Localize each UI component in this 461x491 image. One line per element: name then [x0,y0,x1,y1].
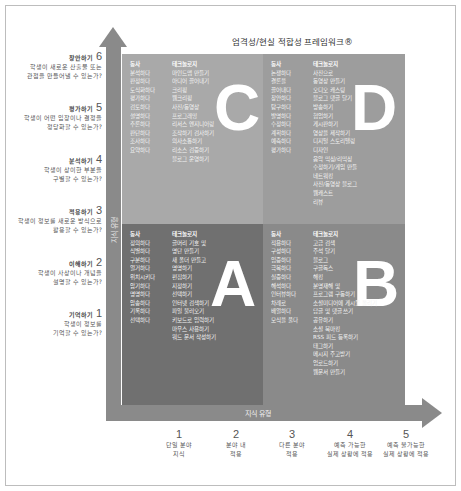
verb-list: 동사 논쟁하다 결론을 끌어내다 창안하다 탐구하다 발명하다 수정하다 계획하… [271,60,313,206]
quadrant-b: B 동사 적용하다 구성하다 입증하다 극복하다 실증하다 해석하다 인터뷰하다… [263,224,405,405]
level-3: 적용하기3 학생이 정보를 새로운 방식으로 활용할 수 있는가? [2,206,102,234]
figure-title: 엄격성/현실 적합성 프레임워크® [232,35,353,47]
verb-list: 동사 분석하다 판정하다 도식화하다 평가하다 검토하다 설명하다 추론하다 판… [130,60,172,163]
level-2: 이해하기2 학생이 사상이나 개념을 설명할 수 있는가? [2,258,102,286]
horizontal-axis-label: 지식 유형 [245,408,271,418]
arrow-right-icon [422,398,442,428]
application-level-5: 5 예측 불가능한 실제 상황에 적용 [366,428,446,458]
level-1: 기억하기1 학생이 정보를 기억할 수 있는가? [2,309,102,337]
quadrant-c: C 동사 분석하다 판정하다 도식화하다 평가하다 검토하다 설명하다 추론하다… [122,54,263,224]
technology-list: 테크놀로지 고급 검색 주석 달기 블로그 구글독스 해킹 분명재해 및 프로그… [313,230,393,376]
technology-list: 테크놀로지 글머리 기호 및 명단 만들기 새 폴더 만들고 명명하기 편집하기… [172,230,252,342]
level-4: 분석하기4 학생이 상이한 부분을 구별할 수 있는가? [2,155,102,183]
technology-list: 테크놀로지 사진으로 동영상 만들기 오디오 캐스팅 블로그 댓글 달기 방송하… [313,60,393,206]
level-5: 평가하기5 학생이 어떤 입장이나 결정을 정당화할 수 있는가? [2,103,102,131]
verb-list: 동사 적용하다 구성하다 입증하다 극복하다 실증하다 해석하다 인터뷰하다 차… [271,230,313,376]
quadrant-d: D 동사 논쟁하다 결론을 끌어내다 창안하다 탐구하다 발명하다 수정하다 계… [263,54,405,224]
vertical-axis-label: 지식 유형 [109,216,119,244]
technology-list: 테크놀로지 마인드맵 만들기 아디어 끌어내기 크리핑 웹크리핑 사진/동영상 … [172,60,252,163]
arrow-up-icon [99,27,127,47]
quadrant-a: A 동사 정의하다 식별하다 구분하다 열거하다 위치시키다 암기하다 명명하다… [122,224,263,405]
verb-list: 동사 정의하다 식별하다 구분하다 열거하다 위치시키다 암기하다 명명하다 암… [130,230,172,342]
level-6: 창안하기6 학생이 새로운 산출물 또는 관점을 만들어낼 수 있는가? [2,52,102,80]
